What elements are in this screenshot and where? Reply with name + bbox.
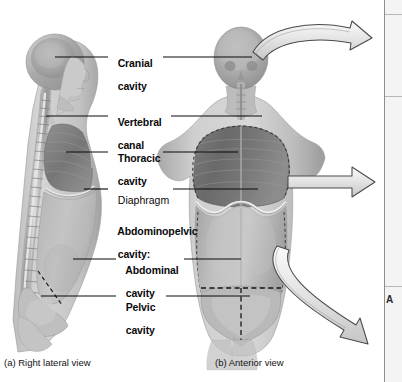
label-cranial-cavity: Cranial cavity [112,46,153,92]
label-diaphragm: Diaphragm [112,183,169,206]
anatomy-illustration [0,0,402,382]
label-abdominopelvic-cavity-line1: Abdominopelvic [117,225,197,237]
label-cranial-cavity-line1: Cranial [118,57,153,69]
label-cranial-cavity-line2: cavity [118,80,147,92]
caption-anterior-view: (b) Anterior view [215,357,284,368]
anterior-vertebral-canal [236,82,246,120]
label-pelvic-cavity: Pelvic cavity [120,290,155,336]
label-thoracic-cavity: Thoracic cavity [112,141,161,187]
adjacent-panel-text: A [386,294,402,305]
label-pelvic-cavity-line1: Pelvic [126,301,156,313]
label-thoracic-cavity-line1: Thoracic [118,152,161,164]
label-pelvic-cavity-line2: cavity [126,324,155,336]
body-cavities-figure [0,0,402,382]
label-vertebral-canal-line1: Vertebral [118,116,162,128]
adjacent-panel [384,0,402,382]
label-diaphragm-line1: Diaphragm [118,194,169,206]
label-abdominal-cavity-line1: Abdominal [125,264,178,276]
caption-lateral-view: (a) Right lateral view [4,357,91,368]
